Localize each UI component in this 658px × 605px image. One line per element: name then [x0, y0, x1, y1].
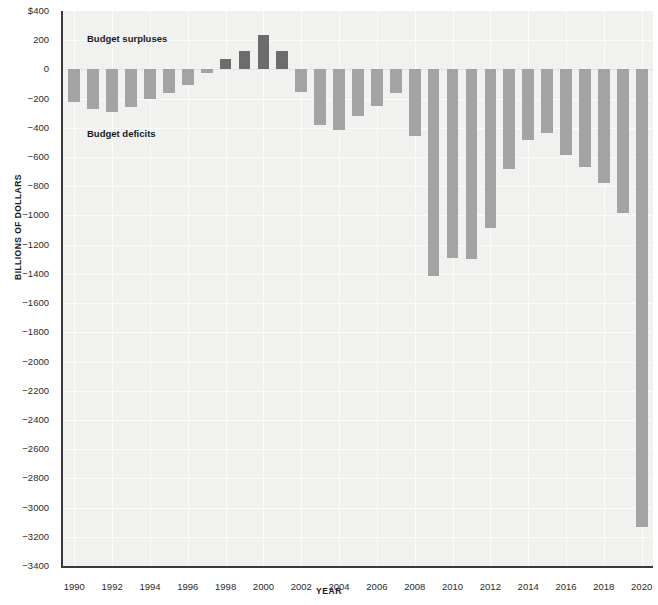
y-axis-title: BILLIONS OF DOLLARS — [13, 147, 23, 307]
y-tick-label: −1600 — [0, 298, 49, 308]
gridline-vertical — [263, 11, 264, 566]
x-tick-label: 2010 — [433, 582, 473, 592]
bar-1992 — [106, 69, 118, 111]
y-tick-label: 0 — [0, 64, 49, 74]
bar-2020 — [636, 69, 648, 526]
gridline-horizontal — [63, 449, 653, 450]
bar-1995 — [163, 69, 175, 93]
y-tick-label: −200 — [0, 94, 49, 104]
gridline-horizontal — [63, 478, 653, 479]
x-tick-label: 2002 — [281, 582, 321, 592]
y-tick-label: −1200 — [0, 240, 49, 250]
bar-1996 — [182, 69, 194, 85]
x-tick-label: 2000 — [243, 582, 283, 592]
gridline-horizontal — [63, 245, 653, 246]
gridline-horizontal — [63, 186, 653, 187]
plot-area: Budget surpluses Budget deficits $400200… — [61, 11, 653, 568]
gridline-vertical — [226, 11, 227, 566]
x-tick-label: 2006 — [357, 582, 397, 592]
gridline-horizontal — [63, 274, 653, 275]
bar-2016 — [560, 69, 572, 154]
gridline-horizontal — [63, 332, 653, 333]
x-tick-label: 2012 — [470, 582, 510, 592]
gridline-horizontal — [63, 508, 653, 509]
x-tick-label: 2016 — [546, 582, 586, 592]
bar-2018 — [598, 69, 610, 183]
y-tick-label: −800 — [0, 181, 49, 191]
y-tick-label: −2600 — [0, 444, 49, 454]
bar-2004 — [333, 69, 345, 129]
y-tick-label: −1800 — [0, 327, 49, 337]
bar-2009 — [428, 69, 440, 275]
y-tick-label: −1400 — [0, 269, 49, 279]
x-tick-label: 1992 — [92, 582, 132, 592]
x-tick-label: 1996 — [168, 582, 208, 592]
bar-2000 — [258, 35, 270, 69]
bar-2014 — [522, 69, 534, 140]
y-tick-label: −2800 — [0, 473, 49, 483]
gridline-horizontal — [63, 362, 653, 363]
y-tick-label: $400 — [0, 6, 49, 16]
x-tick-label: 1998 — [206, 582, 246, 592]
x-tick-label: 2004 — [319, 582, 359, 592]
plot-inner: Budget surpluses Budget deficits — [63, 11, 653, 566]
annotation-budget-surpluses: Budget surpluses — [87, 33, 167, 44]
bar-1997 — [201, 69, 213, 72]
x-tick-label: 2014 — [508, 582, 548, 592]
y-tick-label: 200 — [0, 35, 49, 45]
bar-2011 — [466, 69, 478, 259]
y-tick-label: −2200 — [0, 386, 49, 396]
bar-2010 — [447, 69, 459, 258]
bar-2019 — [617, 69, 629, 213]
bar-2003 — [314, 69, 326, 124]
bar-1999 — [239, 51, 251, 69]
bar-1998 — [220, 59, 232, 69]
bar-1990 — [68, 69, 80, 101]
x-tick-label: 1994 — [130, 582, 170, 592]
gridline-horizontal — [63, 157, 653, 158]
y-tick-label: −3000 — [0, 503, 49, 513]
gridline-horizontal — [63, 215, 653, 216]
bar-2013 — [503, 69, 515, 168]
y-tick-label: −400 — [0, 123, 49, 133]
y-tick-label: −3400 — [0, 561, 49, 571]
gridline-horizontal — [63, 420, 653, 421]
budget-deficit-chart: BILLIONS OF DOLLARS YEAR Budget surpluse… — [0, 0, 658, 605]
y-tick-label: −2400 — [0, 415, 49, 425]
bar-2015 — [541, 69, 553, 133]
x-tick-label: 2008 — [395, 582, 435, 592]
x-tick-label: 2018 — [584, 582, 624, 592]
y-tick-label: −1000 — [0, 210, 49, 220]
bar-2007 — [390, 69, 402, 93]
bar-2005 — [352, 69, 364, 115]
bar-2006 — [371, 69, 383, 105]
y-tick-label: −3200 — [0, 532, 49, 542]
gridline-vertical — [188, 11, 189, 566]
bar-2012 — [485, 69, 497, 228]
gridline-horizontal — [63, 303, 653, 304]
bar-2001 — [276, 51, 288, 70]
gridline-horizontal — [63, 537, 653, 538]
x-tick-label: 2020 — [622, 582, 658, 592]
annotation-budget-deficits: Budget deficits — [87, 128, 156, 139]
bar-2017 — [579, 69, 591, 166]
x-tick-label: 1990 — [54, 582, 94, 592]
bar-2002 — [295, 69, 307, 92]
bar-1991 — [87, 69, 99, 108]
y-tick-label: −2000 — [0, 357, 49, 367]
bar-2008 — [409, 69, 421, 136]
bar-1994 — [144, 69, 156, 99]
y-tick-label: −600 — [0, 152, 49, 162]
gridline-horizontal — [63, 391, 653, 392]
bar-1993 — [125, 69, 137, 106]
gridline-vertical — [301, 11, 302, 566]
